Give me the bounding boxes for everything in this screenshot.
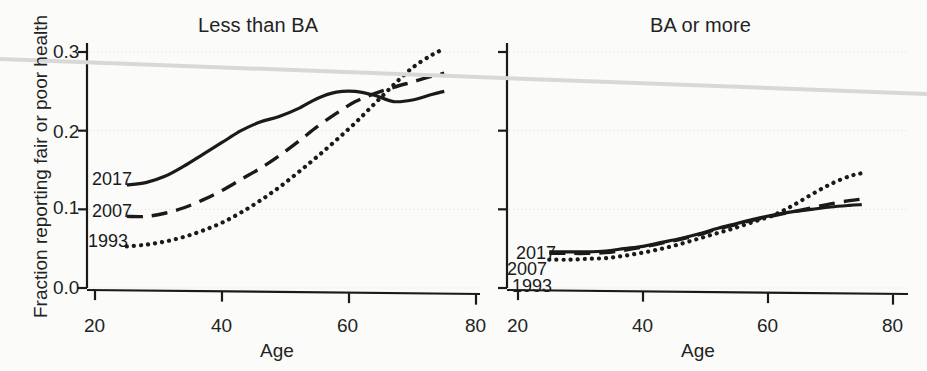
chart-canvas xyxy=(0,0,927,371)
x-tick-label-left-80: 80 xyxy=(465,315,486,337)
x-tick-label-left-60: 60 xyxy=(337,315,358,337)
x-tick-label-right-20: 20 xyxy=(507,315,528,337)
panel-title-left: Less than BA xyxy=(198,14,318,37)
series-tag-left-2007: 2007 xyxy=(92,201,132,222)
y-axis-label: Fraction reporting fair or poor health xyxy=(30,15,52,318)
x-axis-label-right: Age xyxy=(681,340,715,362)
x-tick-label-right-40: 40 xyxy=(632,315,653,337)
series-line-1993 xyxy=(127,49,445,246)
scan-artifact-line xyxy=(0,59,927,94)
y-tick-label-03: 0.3 xyxy=(53,41,79,63)
x-axis-spine xyxy=(507,290,908,294)
panel-title-right: BA or more xyxy=(650,14,751,37)
series-line-2017 xyxy=(127,91,445,185)
series-line-2007 xyxy=(549,199,862,253)
figure-root: Fraction reporting fair or poor health L… xyxy=(0,0,927,371)
series-line-1993 xyxy=(549,173,862,260)
x-tick-label-right-80: 80 xyxy=(882,315,903,337)
y-tick-label-00: 0.0 xyxy=(53,277,79,299)
x-tick-label-left-20: 20 xyxy=(84,315,105,337)
x-axis-spine xyxy=(87,290,480,294)
series-line-2007 xyxy=(127,73,445,216)
series-tag-left-2017: 2017 xyxy=(92,169,132,190)
y-tick-label-02: 0.2 xyxy=(53,121,79,143)
x-tick-label-left-40: 40 xyxy=(211,315,232,337)
y-tick-label-01: 0.1 xyxy=(53,197,79,219)
series-tag-left-1993: 1993 xyxy=(88,231,128,252)
series-line-2017 xyxy=(549,205,862,252)
series-tag-right-1993: 1993 xyxy=(512,276,552,297)
x-axis-label-left: Age xyxy=(260,340,294,362)
x-tick-label-right-60: 60 xyxy=(757,315,778,337)
